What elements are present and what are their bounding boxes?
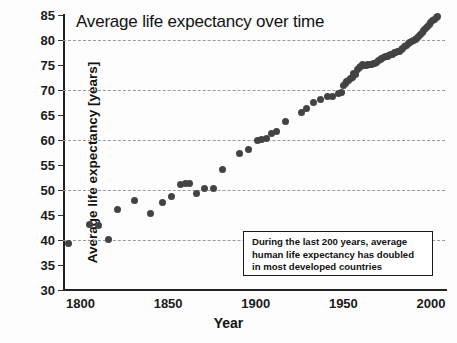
data-point — [317, 96, 324, 103]
data-point — [147, 210, 154, 217]
y-tick-label: 60 — [41, 134, 55, 147]
x-tick-label: 2000 — [417, 297, 446, 310]
y-tick-mark — [58, 15, 63, 16]
y-tick-label: 55 — [41, 159, 55, 172]
y-tick-label: 35 — [41, 259, 55, 272]
data-point — [338, 89, 345, 96]
data-point — [186, 180, 193, 187]
data-point — [159, 199, 166, 206]
annotation-line: human life expectancy has doubled — [252, 249, 425, 262]
y-tick-mark — [58, 115, 63, 116]
x-axis-title: Year — [0, 315, 457, 331]
y-tick-mark — [58, 290, 63, 291]
data-point — [65, 240, 72, 247]
y-tick-mark — [58, 215, 63, 216]
y-tick-mark — [58, 140, 63, 141]
gridline — [63, 190, 445, 191]
annotation-line: in most developed countries — [252, 261, 425, 274]
y-tick-label: 45 — [41, 209, 55, 222]
y-tick-mark — [58, 265, 63, 266]
x-tick-label: 1850 — [154, 297, 183, 310]
y-tick-label: 70 — [41, 84, 55, 97]
data-point — [219, 166, 226, 173]
gridline — [63, 40, 445, 41]
data-point — [131, 197, 138, 204]
data-point — [168, 193, 175, 200]
y-tick-label: 85 — [41, 9, 55, 22]
y-tick-label: 30 — [41, 284, 55, 297]
data-point — [434, 13, 441, 20]
data-point — [193, 190, 200, 197]
data-point — [105, 236, 112, 243]
data-point — [86, 221, 93, 228]
annotation-line: During the last 200 years, average — [252, 236, 425, 249]
y-tick-label: 75 — [41, 59, 55, 72]
y-tick-mark — [58, 90, 63, 91]
data-point — [201, 185, 208, 192]
data-point — [95, 222, 102, 229]
y-tick-label: 80 — [41, 34, 55, 47]
data-point — [310, 99, 317, 106]
y-tick-label: 40 — [41, 234, 55, 247]
y-tick-mark — [58, 40, 63, 41]
y-tick-mark — [58, 190, 63, 191]
y-tick-mark — [58, 165, 63, 166]
annotation-callout: During the last 200 years, average human… — [243, 231, 433, 276]
data-point — [273, 128, 280, 135]
data-point — [303, 105, 310, 112]
x-tick-label: 1800 — [66, 297, 95, 310]
y-tick-mark — [58, 65, 63, 66]
data-point — [282, 118, 289, 125]
y-tick-mark — [58, 240, 63, 241]
data-point — [245, 146, 252, 153]
x-tick-label: 1900 — [241, 297, 270, 310]
y-tick-label: 50 — [41, 184, 55, 197]
data-point — [114, 206, 121, 213]
y-tick-label: 65 — [41, 109, 55, 122]
x-tick-label: 1950 — [329, 297, 358, 310]
data-point — [236, 150, 243, 157]
data-point — [210, 185, 217, 192]
gridline — [63, 90, 445, 91]
chart-figure: Average life expectancy over time Averag… — [0, 0, 457, 343]
